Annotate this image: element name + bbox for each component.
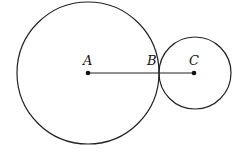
label-A: A bbox=[82, 53, 92, 68]
point-C-dot bbox=[192, 71, 197, 76]
point-A-dot bbox=[86, 71, 91, 76]
label-B: B bbox=[146, 53, 157, 68]
tangent-circles-diagram: A B C bbox=[0, 0, 247, 152]
label-C: C bbox=[189, 53, 199, 68]
